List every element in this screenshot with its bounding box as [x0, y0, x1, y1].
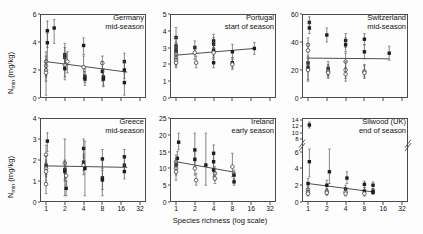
figure-root: Nmin (mg/kg) Nmin (mg/kg) Species richne… [0, 0, 423, 234]
x-axis-label: Species richness (log scale) [150, 216, 290, 225]
y-tick-label: 1 [33, 178, 37, 185]
y-tick-label: 2 [33, 157, 37, 164]
marker-filled-square [212, 160, 215, 163]
y-tick-label: 6 [295, 148, 299, 155]
data-point [82, 38, 85, 55]
data-point [363, 181, 366, 188]
x-tick-label: 4 [82, 205, 86, 212]
x-tick-label: 2 [325, 205, 329, 212]
marker-filled-square [363, 183, 366, 186]
x-tick-mark [83, 98, 84, 101]
data-point [101, 171, 104, 190]
y-tick-label: 4 [33, 115, 37, 122]
marker-filled-square [204, 163, 207, 166]
marker-open-circle [363, 192, 367, 196]
trend-line [46, 166, 127, 167]
marker-filled-square [328, 170, 331, 173]
x-tick-mark [213, 98, 214, 101]
marker-filled-square [46, 29, 49, 32]
data-point [231, 44, 234, 57]
data-point [388, 46, 391, 60]
y-tick-label: 3 [163, 44, 167, 51]
x-tick-mark [102, 98, 103, 101]
data-point [325, 28, 328, 42]
marker-filled-square [371, 191, 374, 194]
data-point [177, 133, 180, 150]
marker-filled-square [325, 33, 328, 36]
data-point [328, 149, 331, 183]
marker-filled-square [253, 47, 256, 50]
marker-open-circle [44, 71, 48, 75]
marker-open-circle [194, 178, 198, 182]
x-tick-mark [121, 98, 122, 101]
panel-switzerland: Switzerlandmid-season0204060 [302, 14, 408, 98]
panel-greece: Greecemid-season0123412481632 [40, 118, 146, 202]
marker-filled-square [371, 184, 374, 187]
x-tick-label: 16 [117, 205, 125, 212]
data-point [204, 133, 207, 185]
y-tick-label: 2 [163, 61, 167, 68]
y-tick-label: 0 [295, 95, 299, 102]
marker-filled-square [345, 176, 348, 179]
y-tick-label: 60 [291, 11, 299, 18]
x-tick-label: 1 [174, 205, 178, 212]
data-point [363, 34, 366, 45]
marker-open-circle [174, 61, 178, 65]
y-tick-label: 10 [292, 130, 299, 136]
y-tick-label: 0 [163, 95, 167, 102]
marker-filled-square [212, 152, 215, 155]
marker-open-circle [174, 170, 178, 174]
marker-filled-square [325, 184, 328, 187]
x-tick-label: 32 [266, 205, 274, 212]
marker-filled-square [46, 139, 49, 142]
marker-filled-square [123, 81, 126, 84]
plot-area [302, 14, 408, 98]
y-tick-label: 0 [163, 199, 167, 206]
marker-filled-square [231, 50, 234, 53]
x-tick-mark [345, 98, 346, 101]
marker-filled-square [193, 148, 196, 151]
marker-open-circle [231, 165, 235, 169]
plot-area [302, 118, 408, 202]
plot-area [170, 14, 276, 98]
data-point [52, 20, 55, 44]
marker-filled-square [123, 170, 126, 173]
trend-line [308, 58, 389, 59]
y-tick-label: 0 [33, 95, 37, 102]
plot-area [170, 118, 276, 202]
marker-open-circle [306, 192, 310, 196]
x-tick-label: 4 [212, 205, 216, 212]
x-tick-label: 32 [398, 205, 406, 212]
marker-filled-square [177, 140, 180, 143]
marker-filled-square [232, 180, 235, 183]
marker-open-circle [306, 68, 310, 72]
x-tick-mark [364, 98, 365, 101]
marker-open-circle [66, 60, 70, 64]
marker-filled-square [212, 61, 215, 64]
panel-ireland: Irelandearly season051015202512481632 [170, 118, 276, 202]
trend-line [46, 62, 127, 73]
marker-open-circle [213, 177, 217, 181]
x-tick-mark [308, 98, 309, 101]
marker-open-circle [306, 49, 310, 53]
marker-filled-square [308, 123, 311, 126]
data-point [44, 63, 48, 95]
marker-open-circle [64, 174, 68, 178]
marker-open-circle [44, 182, 48, 186]
panel-silwood-uk: Silwood (UK)end of season024681012141248… [302, 118, 408, 202]
data-point [363, 66, 367, 79]
x-tick-label: 8 [363, 205, 367, 212]
marker-filled-square [83, 77, 86, 80]
y-tick-label: 40 [291, 39, 299, 46]
y-tick-label: 2 [295, 182, 299, 189]
marker-filled-square [344, 43, 347, 46]
marker-filled-square [388, 52, 391, 55]
marker-open-circle [193, 51, 197, 55]
y-tick-label: 1 [163, 78, 167, 85]
marker-filled-square [193, 158, 196, 161]
marker-filled-square [83, 167, 86, 170]
x-tick-mark [139, 98, 140, 101]
marker-open-circle [212, 51, 216, 55]
marker-filled-square [363, 38, 366, 41]
marker-open-circle [326, 71, 330, 75]
